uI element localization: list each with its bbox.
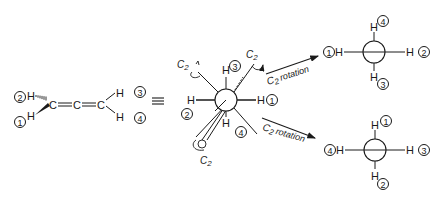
- bond-right-top: [106, 93, 115, 100]
- c2-rotation-arrow-lower: C2rotation: [261, 118, 315, 146]
- hydrogen-right: H: [406, 46, 414, 58]
- c2-rotation-arrow-upper: C2rotation: [265, 56, 318, 89]
- carbon-3: C: [97, 99, 105, 111]
- label-circle-1: 1: [15, 117, 26, 128]
- hydrogen-top: H: [371, 119, 379, 131]
- label-circle-3: 3: [378, 79, 389, 90]
- svg-text:1: 1: [383, 117, 388, 127]
- c2-axis-upper-right: C2: [246, 49, 263, 70]
- label-circle-1: 1: [381, 116, 392, 127]
- hydrogen-bottom: H: [371, 170, 379, 182]
- label-circle-3: 3: [135, 87, 146, 98]
- allene-structure: 2 H 1 H C C C H: [15, 87, 146, 128]
- label-circle-4: 4: [135, 113, 146, 124]
- double-bond-2: [82, 103, 96, 106]
- hashed-wedge-bond: [36, 95, 46, 101]
- newman-projection-upper: 1 H H 2 H 4 H 3: [324, 16, 430, 90]
- double-bond-1: [58, 103, 72, 106]
- hydrogen-right: H: [257, 94, 265, 106]
- label-circle-2: 2: [15, 92, 26, 103]
- svg-text:4: 4: [238, 128, 243, 138]
- label-circle-1: 1: [324, 47, 335, 58]
- svg-text:1: 1: [269, 96, 274, 106]
- label-circle-2: 2: [182, 109, 193, 120]
- svg-text:1: 1: [17, 118, 22, 128]
- svg-text:3: 3: [380, 80, 385, 90]
- label-circle-3: 3: [230, 61, 241, 72]
- hydrogen-left: H: [336, 144, 344, 156]
- hydrogen-left-top: H: [27, 90, 35, 102]
- label-circle-2: 2: [419, 47, 430, 58]
- hydrogen-left: H: [335, 46, 343, 58]
- svg-text:2: 2: [17, 93, 22, 103]
- svg-text:2: 2: [184, 110, 189, 120]
- bond-right-bottom: [106, 106, 115, 113]
- label-circle-3: 3: [419, 145, 430, 156]
- carbon-2: C: [73, 99, 81, 111]
- svg-text:4: 4: [380, 17, 385, 27]
- svg-text:C2: C2: [200, 155, 212, 168]
- label-circle-2: 2: [378, 179, 389, 190]
- svg-text:4: 4: [327, 146, 332, 156]
- hydrogen-top: H: [370, 21, 378, 33]
- svg-text:C2: C2: [177, 59, 189, 72]
- hydrogen-right-top: H: [116, 87, 124, 99]
- svg-text:C2: C2: [246, 49, 258, 62]
- carbon-1: C: [49, 99, 57, 111]
- central-newman-projection: H 3 H 2 H 1 H 4 C2 C2: [177, 49, 278, 168]
- hydrogen-left: H: [187, 94, 195, 106]
- allene-symmetry-diagram: 2 H 1 H C C C H: [0, 0, 445, 203]
- newman-projection-lower: 4 H H 3 H 1 H 2: [325, 116, 430, 190]
- label-circle-4: 4: [236, 127, 247, 138]
- svg-text:3: 3: [421, 146, 426, 156]
- svg-text:3: 3: [137, 88, 142, 98]
- svg-text:4: 4: [137, 114, 142, 124]
- solid-wedge-bond: [35, 103, 50, 115]
- hydrogen-left-bottom: H: [27, 110, 35, 122]
- c2-axis-lower: C2: [193, 140, 212, 168]
- hydrogen-right-bottom: H: [116, 111, 124, 123]
- label-circle-4: 4: [378, 16, 389, 27]
- svg-text:2: 2: [421, 48, 426, 58]
- label-circle-4: 4: [325, 145, 336, 156]
- equivalence-symbol: [152, 98, 164, 104]
- hydrogen-top: H: [222, 64, 230, 76]
- hydrogen-right: H: [406, 144, 414, 156]
- c2-axis-upper-left: C2: [177, 59, 200, 78]
- svg-text:3: 3: [232, 62, 237, 72]
- svg-text:1: 1: [326, 48, 331, 58]
- svg-text:C2rotation: C2rotation: [261, 121, 307, 146]
- hydrogen-bottom: H: [222, 117, 230, 129]
- label-circle-1: 1: [267, 95, 278, 106]
- hydrogen-bottom: H: [370, 71, 378, 83]
- svg-text:2: 2: [380, 180, 385, 190]
